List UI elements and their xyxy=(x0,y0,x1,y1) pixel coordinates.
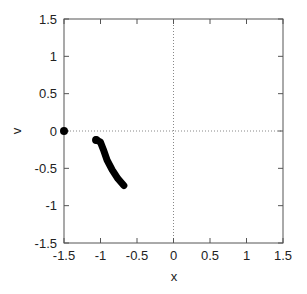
x-tick-labels: -1.5-1-0.500.511.5 xyxy=(53,248,292,263)
x-tick-label: -0.5 xyxy=(126,248,148,263)
x-tick-label: 1.5 xyxy=(274,248,292,263)
y-tick-labels: -1.5-1-0.500.511.5 xyxy=(35,12,57,251)
reference-lines xyxy=(64,19,283,243)
y-tick-label: 0 xyxy=(50,124,57,139)
phase-plot: -1.5-1-0.500.511.5 -1.5-1-0.500.511.5 x … xyxy=(0,0,307,294)
trajectory-curve xyxy=(96,140,124,186)
point-marker xyxy=(60,127,68,135)
y-tick-label: 0.5 xyxy=(39,86,57,101)
y-tick-label: 1.5 xyxy=(39,12,57,27)
trajectory-start-marker xyxy=(92,136,100,144)
x-tick-label: 1 xyxy=(243,248,250,263)
x-tick-label: 0.5 xyxy=(201,248,219,263)
y-tick-label: -1 xyxy=(45,198,57,213)
x-tick-label: -1 xyxy=(95,248,107,263)
y-tick-label: 1 xyxy=(50,49,57,64)
y-tick-label: -0.5 xyxy=(35,161,57,176)
y-tick-label: -1.5 xyxy=(35,236,57,251)
y-axis-label: v xyxy=(9,127,24,134)
x-axis-label: x xyxy=(171,269,178,284)
x-tick-label: 0 xyxy=(170,248,177,263)
series xyxy=(60,127,124,186)
